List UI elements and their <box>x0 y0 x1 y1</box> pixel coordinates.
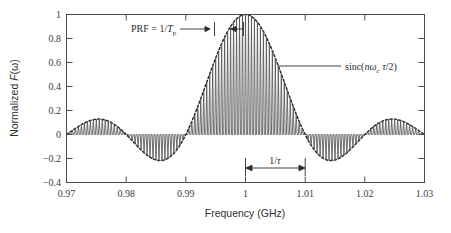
sinc-prefix: sinc( <box>345 61 365 73</box>
x-tick-label: 1 <box>243 188 248 199</box>
x-tick-label: 0.98 <box>117 188 135 199</box>
x-tick-label: 1.03 <box>416 188 434 199</box>
y-tick-label: 1 <box>56 9 61 20</box>
tau-width-label: 1/τ <box>269 155 281 166</box>
y-axis-title: Normalized F(ω) <box>8 59 20 137</box>
y-tick-label: 0.2 <box>49 105 62 116</box>
y-tick-label: −0.2 <box>43 153 61 164</box>
prf-text: PRF = 1/ <box>131 23 167 34</box>
prf-text-sub: p <box>173 29 177 37</box>
x-tick-label: 0.97 <box>58 188 76 199</box>
y-tick-label: 0.6 <box>49 57 62 68</box>
tau-symbol: τ <box>277 155 281 166</box>
x-axis-title: Frequency (GHz) <box>205 207 286 219</box>
spectrum-chart: 1 0.8 0.6 0.4 0.2 0 −0.2 −0.4 0.97 0.98 … <box>0 0 451 233</box>
sinc-omega: ω <box>369 61 376 72</box>
y-axis-title-arg: (ω) <box>8 59 20 74</box>
sinc-suffix: /2) <box>386 61 397 73</box>
y-tick-label: 0 <box>56 129 61 140</box>
spectrum-figure: 1 0.8 0.6 0.4 0.2 0 −0.2 −0.4 0.97 0.98 … <box>0 0 451 233</box>
y-tick-label: −0.4 <box>43 177 61 188</box>
x-tick-label: 0.99 <box>177 188 195 199</box>
y-tick-label: 0.4 <box>49 81 62 92</box>
y-axis-title-prefix: Normalized <box>8 81 20 137</box>
x-tick-label: 1.01 <box>296 188 314 199</box>
y-tick-label: 0.8 <box>49 33 62 44</box>
x-tick-label: 1.02 <box>356 188 374 199</box>
